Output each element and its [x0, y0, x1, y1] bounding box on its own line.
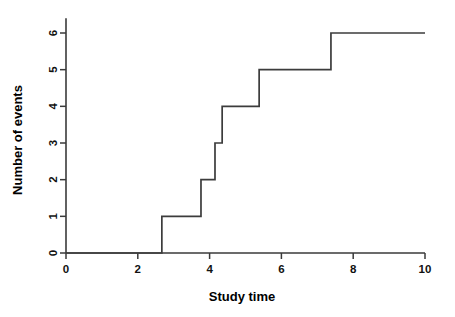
- y-tick-label: 3: [47, 140, 59, 146]
- y-tick-label: 1: [47, 213, 59, 220]
- x-tick-label: 8: [350, 263, 357, 275]
- y-tick-label: 5: [47, 66, 59, 73]
- y-tick-label: 0: [47, 250, 59, 256]
- y-axis-ticks: [60, 33, 66, 253]
- x-tick-label: 6: [278, 263, 284, 275]
- y-axis-title: Number of events: [10, 85, 25, 195]
- y-tick-label: 2: [47, 176, 59, 182]
- x-tick-label: 0: [63, 263, 69, 275]
- step-plot-svg: 0123456 0246810 Study time Number of eve…: [0, 0, 455, 317]
- x-axis-ticks: [66, 253, 425, 259]
- x-axis-tick-labels: 0246810: [63, 263, 432, 275]
- y-tick-label: 6: [47, 30, 59, 36]
- x-tick-label: 10: [419, 263, 432, 275]
- x-tick-label: 2: [135, 263, 141, 275]
- x-tick-label: 4: [206, 263, 213, 275]
- cumulative-events-step-line: [66, 33, 425, 253]
- x-axis-title: Study time: [209, 289, 275, 304]
- chart-figure: 0123456 0246810 Study time Number of eve…: [0, 0, 455, 317]
- y-axis-tick-labels: 0123456: [47, 30, 59, 256]
- y-tick-label: 4: [47, 103, 59, 110]
